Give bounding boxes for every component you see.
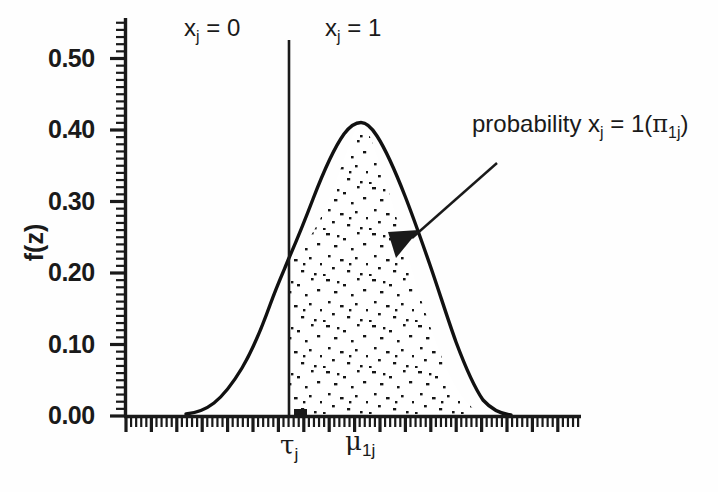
tau-symbol: τ <box>280 430 294 460</box>
plot-canvas <box>0 0 718 492</box>
y-tick-label-020: 0.20 <box>48 260 95 285</box>
x-tick-label-mu: μ1j <box>345 428 375 459</box>
y-tick-label-040: 0.40 <box>48 117 95 142</box>
region-left-var: x <box>184 14 196 41</box>
mean-marker-mu <box>294 409 307 418</box>
y-axis-title: f(z) <box>22 203 47 283</box>
y-axis-minor-ticks <box>116 23 126 409</box>
callout-pi-sub: 1j <box>668 124 680 141</box>
probability-callout-label: probability xj = 1(π1j) <box>472 112 688 140</box>
x-tick-label-tau: τj <box>280 432 298 463</box>
normal-distribution-figure: 0.50 0.40 0.30 0.20 0.10 0.00 f(z) xj = … <box>0 0 718 492</box>
y-tick-label-050: 0.50 <box>48 46 95 71</box>
region-left-eq: = 0 <box>200 14 241 41</box>
region-right-var: x <box>325 14 337 41</box>
callout-pi-symbol: π <box>652 110 668 138</box>
callout-word: probability <box>472 110 588 137</box>
y-tick-label-030: 0.30 <box>48 189 95 214</box>
callout-var: x <box>588 110 600 137</box>
x-axis-major-ticks <box>126 416 558 432</box>
region-label-right: xj = 1 <box>325 16 381 44</box>
region-right-eq: = 1 <box>341 14 382 41</box>
callout-close-paren: ) <box>680 110 688 137</box>
callout-eq: = 1( <box>604 110 653 137</box>
tau-subscript: j <box>294 444 298 464</box>
mu-subscript: 1j <box>362 440 375 460</box>
mu-symbol: μ <box>345 426 362 456</box>
y-tick-label-010: 0.10 <box>48 332 95 357</box>
probability-callout-arrow <box>388 163 497 258</box>
y-tick-label-000: 0.00 <box>48 403 95 428</box>
region-label-left: xj = 0 <box>184 16 240 44</box>
